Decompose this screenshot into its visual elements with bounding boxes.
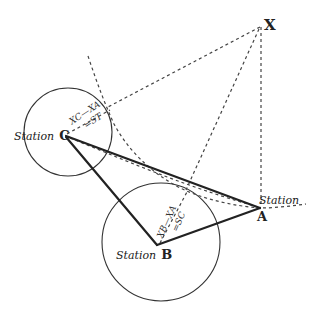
station-b-label: Station B	[116, 245, 172, 262]
station-a-letter: A	[256, 209, 268, 224]
station-a-prefix: Station	[259, 194, 299, 207]
line-x-to-b-direction	[186, 29, 259, 190]
station-c-prefix: Station	[14, 130, 54, 143]
line-x-to-c-direction	[106, 27, 260, 108]
station-b-prefix: Station	[116, 249, 156, 262]
point-x-label: X	[264, 16, 276, 34]
station-c-letter: C	[59, 128, 69, 143]
station-c-label: Station C	[14, 126, 70, 143]
station-b-letter: B	[161, 247, 172, 262]
tdoa-position-diagram: X Station C XC—XA =ST Station A Station …	[0, 0, 322, 319]
